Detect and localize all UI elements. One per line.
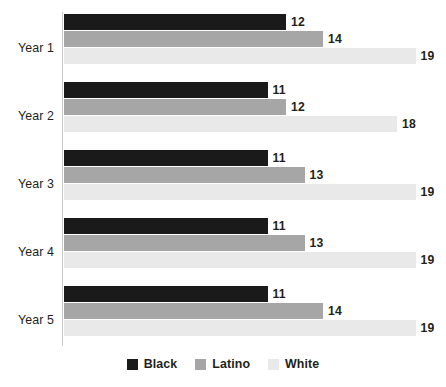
bar-value-label: 11 [273, 287, 286, 301]
plot-area: Year 1121419Year 2111218Year 3111319Year… [0, 0, 446, 350]
bar-row: 13 [64, 235, 444, 251]
bar-group: Year 3111319 [0, 150, 446, 218]
category-label-year-2: Year 2 [0, 82, 54, 150]
bar-value-label: 12 [291, 15, 305, 29]
category-label-year-4: Year 4 [0, 218, 54, 286]
bar-latino [64, 303, 323, 319]
bar-value-label: 18 [402, 117, 416, 131]
bar-value-label: 14 [328, 304, 342, 318]
category-label-year-5: Year 5 [0, 286, 54, 354]
bar-row: 18 [64, 116, 444, 132]
bar-value-label: 11 [273, 219, 286, 233]
bar-value-label: 19 [421, 49, 435, 63]
bar-chart: Year 1121419Year 2111218Year 3111319Year… [0, 0, 446, 387]
bar-black [64, 286, 268, 302]
bar-value-label: 11 [273, 151, 286, 165]
bar-row: 11 [64, 150, 444, 166]
bar-row: 14 [64, 303, 444, 319]
legend-item-white[interactable]: White [268, 357, 319, 371]
bar-latino [64, 31, 323, 47]
bar-black [64, 82, 268, 98]
bar-black [64, 218, 268, 234]
legend-label: Black [144, 357, 178, 371]
bar-black [64, 150, 268, 166]
bar-latino [64, 235, 305, 251]
bar-row: 11 [64, 286, 444, 302]
bar-value-label: 11 [273, 83, 286, 97]
legend-item-latino[interactable]: Latino [195, 357, 250, 371]
legend-swatch-white-icon [268, 359, 279, 370]
category-label-year-3: Year 3 [0, 150, 54, 218]
bar-value-label: 13 [310, 168, 324, 182]
legend-label: White [285, 357, 319, 371]
bar-row: 11 [64, 218, 444, 234]
bar-row: 19 [64, 184, 444, 200]
bar-white [64, 252, 416, 268]
bar-latino [64, 167, 305, 183]
bar-latino [64, 99, 286, 115]
bar-group: Year 4111319 [0, 218, 446, 286]
bar-group: Year 5111419 [0, 286, 446, 354]
bar-row: 12 [64, 14, 444, 30]
chart-legend: BlackLatinoWhite [0, 353, 446, 375]
bar-row: 19 [64, 252, 444, 268]
bar-row: 12 [64, 99, 444, 115]
legend-swatch-latino-icon [195, 359, 206, 370]
bar-value-label: 13 [310, 236, 324, 250]
bar-row: 13 [64, 167, 444, 183]
bar-white [64, 48, 416, 64]
bar-value-label: 12 [291, 100, 305, 114]
bar-row: 11 [64, 82, 444, 98]
bar-value-label: 19 [421, 185, 435, 199]
category-label-year-1: Year 1 [0, 14, 54, 82]
bar-value-label: 19 [421, 253, 435, 267]
bar-white [64, 184, 416, 200]
bar-white [64, 320, 416, 336]
bar-value-label: 14 [328, 32, 342, 46]
bar-value-label: 19 [421, 321, 435, 335]
bar-group: Year 2111218 [0, 82, 446, 150]
legend-swatch-black-icon [127, 359, 138, 370]
bar-row: 19 [64, 48, 444, 64]
bar-row: 19 [64, 320, 444, 336]
bar-row: 14 [64, 31, 444, 47]
bar-group: Year 1121419 [0, 14, 446, 82]
bar-white [64, 116, 397, 132]
legend-item-black[interactable]: Black [127, 357, 178, 371]
legend-label: Latino [212, 357, 250, 371]
bar-black [64, 14, 286, 30]
